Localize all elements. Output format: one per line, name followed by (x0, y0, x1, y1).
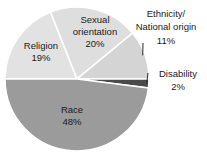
slice-label-sexual-orientation-line1: Sexual (80, 14, 109, 25)
pie-chart-container: Religion 19% Sexual orientation 20% Ethn… (0, 0, 207, 158)
slice-value-sexual-orientation: 20% (85, 38, 105, 49)
pie-chart: Religion 19% Sexual orientation 20% Ethn… (0, 0, 207, 158)
slice-value-ethnicity: 11% (157, 35, 176, 46)
slice-label-ethnicity-line2: National origin (136, 21, 197, 32)
slice-value-disability: 2% (171, 81, 185, 92)
slice-value-religion: 19% (31, 52, 51, 63)
slice-value-race: 48% (62, 116, 82, 127)
slice-label-race: Race (61, 104, 83, 115)
slice-label-ethnicity-line1: Ethnicity/ (147, 8, 186, 19)
slice-label-disability: Disability (159, 68, 197, 79)
slice-label-sexual-orientation-line2: orientation (73, 26, 117, 37)
slice-label-religion: Religion (24, 40, 58, 51)
